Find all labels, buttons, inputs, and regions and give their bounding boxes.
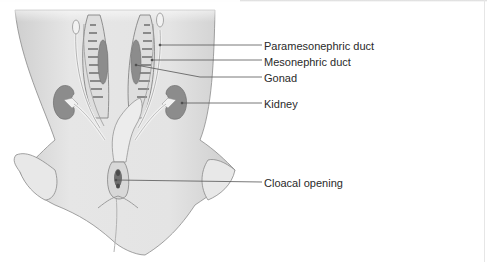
- right-gonad: [131, 40, 141, 84]
- urogenital-illustration: [0, 0, 487, 262]
- label-cloacal-opening: Cloacal opening: [264, 177, 343, 189]
- left-gonad: [98, 40, 108, 84]
- label-mesonephric-duct: Mesonephric duct: [264, 56, 351, 68]
- label-kidney: Kidney: [264, 98, 298, 110]
- label-gonad: Gonad: [264, 72, 297, 84]
- label-paramesonephric-duct: Paramesonephric duct: [264, 40, 374, 52]
